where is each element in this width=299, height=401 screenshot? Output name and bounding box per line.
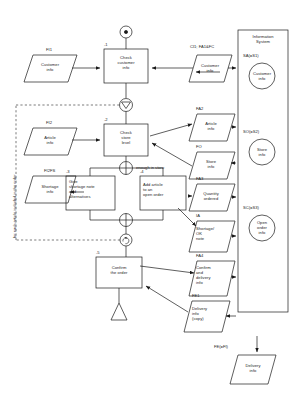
- doc-tag-fi2: FI2: [46, 120, 52, 125]
- store-label-open-order-info: Open order info: [246, 220, 278, 235]
- doc-label-fo: Store info: [194, 159, 228, 169]
- arrow-fo-to-act2: [152, 143, 192, 166]
- branch-label-enough-in-store: enough in store: [136, 165, 164, 170]
- doc-tag-fa2: FA2: [196, 106, 203, 111]
- doc-label-fi2: Article info: [29, 135, 71, 145]
- doc-label-fi1: Customer info: [29, 62, 71, 72]
- activity-2-label: Check store level: [104, 130, 148, 145]
- loop-note-vertical: for each article included in the order: [12, 174, 17, 238]
- activity-3-label: Give shortage note and alternatives: [69, 179, 116, 199]
- doc-label-ci1: Customer info: [193, 63, 227, 73]
- doc-tag-fe: FE(=FI): [214, 344, 228, 349]
- store-tag-sa: SA(=S1): [243, 53, 259, 58]
- doc-tag-ci1: CI1; FA1&FC: [190, 44, 214, 49]
- activity-4-label: Add article to an open order: [143, 182, 187, 197]
- information-system-title: Information System: [238, 34, 288, 44]
- store-tag-so: SO(=S2): [243, 129, 259, 134]
- doc-tag-fe1: FE1: [192, 293, 200, 298]
- doc-tag-ia: IA: [196, 213, 200, 218]
- activity-2-number: -2: [104, 117, 108, 122]
- store-label-store-info: Store info: [246, 147, 278, 157]
- doc-tag-fa4: FA4: [196, 253, 203, 258]
- activity-5-number: -5: [96, 250, 100, 255]
- doc-tag-fi1: FI1: [46, 47, 52, 52]
- arrow-fe1-to-act5: [146, 286, 188, 312]
- doc-label-fe1: Delivery info (copy): [192, 306, 226, 321]
- doc-tag-fo: FO: [196, 144, 202, 149]
- activity-1-number: -1: [104, 42, 108, 47]
- doc-tag-fi2fs: FI2FS: [44, 168, 55, 173]
- activity-5-label: Confirm the order: [96, 265, 142, 275]
- doc-tag-fa3: FA3: [196, 176, 203, 181]
- doc-label-fi2fs: Shortage info: [29, 184, 71, 194]
- doc-label-fe: Delivery info: [236, 363, 270, 373]
- store-tag-sc: SC(=S3): [243, 205, 259, 210]
- activity-3-number: -3: [66, 169, 70, 174]
- doc-label-fa4: Confirm and delivery info: [196, 265, 230, 285]
- diagram-vector-layer: [0, 0, 299, 401]
- doc-label-fa2: Article info: [194, 121, 228, 131]
- doc-label-ia: Shortage/ OK note: [196, 226, 230, 241]
- arrow-act2-to-fa2: [150, 124, 192, 136]
- arrow-act5-to-fa4: [140, 266, 194, 273]
- activity-1-label: Check customer info: [104, 55, 148, 70]
- diagram-canvas: Information System SA(=S1) Customer info…: [0, 0, 299, 401]
- doc-label-fa3: Quantity ordered: [194, 191, 228, 201]
- store-label-customer-info: Customer info: [246, 71, 278, 81]
